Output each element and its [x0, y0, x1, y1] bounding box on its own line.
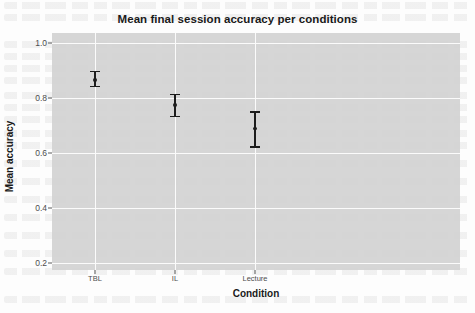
plot-panel: [52, 33, 460, 270]
x-tick-label-tbl: TBL: [88, 274, 102, 283]
x-tick-label-lecture: Lecture: [242, 274, 267, 283]
data-point-tbl: [93, 78, 97, 82]
data-point-il: [173, 103, 177, 107]
errorbar-cap-lower-lecture: [250, 146, 260, 148]
data-point-lecture: [253, 127, 257, 131]
x-axis-title: Condition: [52, 288, 460, 299]
gridline-x-tbl: [95, 33, 96, 270]
y-axis-title: Mean accuracy: [2, 0, 18, 313]
x-tick-label-il: IL: [172, 274, 178, 283]
chart-figure: Mean final session accuracy per conditio…: [0, 0, 475, 313]
gridline-x-lecture: [255, 33, 256, 270]
y-tick-label-0-2: 0.2: [13, 258, 52, 268]
y-tick-label-1-0: 1.0: [13, 38, 52, 48]
y-tick-label-0-6: 0.6: [13, 148, 52, 158]
y-axis-title-label: Mean accuracy: [5, 121, 16, 193]
gridline-x-il: [175, 33, 176, 270]
errorbar-cap-lower-tbl: [90, 86, 100, 88]
chart-title: Mean final session accuracy per conditio…: [0, 13, 475, 25]
y-tick-label-0-4: 0.4: [13, 203, 52, 213]
y-tick-label-0-8: 0.8: [13, 93, 52, 103]
errorbar-cap-lower-il: [170, 116, 180, 118]
